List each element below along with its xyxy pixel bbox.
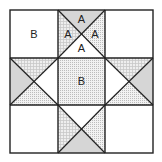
label-a-right: A — [91, 28, 99, 40]
label-a-left: A — [64, 28, 72, 40]
quilt-block-diagram: B B A A A A — [0, 0, 162, 162]
label-center-b: B — [78, 75, 85, 87]
label-a-bottom: A — [78, 42, 86, 54]
label-corner-b: B — [30, 28, 37, 40]
label-a-top: A — [78, 13, 86, 25]
